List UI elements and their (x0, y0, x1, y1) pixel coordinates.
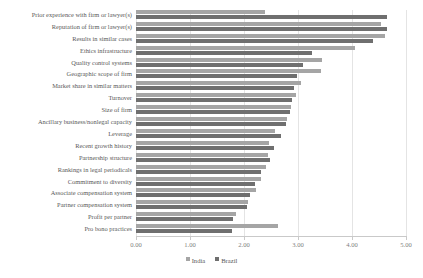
category-label: Partner compensation system (0, 201, 132, 208)
legend-swatch-icon (215, 257, 219, 261)
category-label: Reputation of firm or lawyer(s) (0, 23, 132, 30)
bar-india (136, 81, 301, 85)
bar-india (136, 188, 256, 192)
bar-india (136, 129, 275, 133)
bar-india (136, 200, 248, 204)
bar-india (136, 105, 291, 109)
category-label: Ancillary business/nonlegal capacity (0, 118, 132, 125)
bar-india (136, 153, 268, 157)
bar-group (136, 93, 406, 105)
category-label: Quality control systems (0, 59, 132, 66)
bar-brazil (136, 229, 232, 233)
x-tick-label: 1.00 (175, 241, 205, 249)
category-label: Size of firm (0, 106, 132, 113)
bar-india (136, 177, 261, 181)
bar-india (136, 93, 296, 97)
bar-group (136, 105, 406, 117)
bar-group (136, 34, 406, 46)
bar-brazil (136, 146, 274, 150)
bar-rows (136, 10, 406, 236)
bar-brazil (136, 205, 247, 209)
category-label: Partnership structure (0, 154, 132, 161)
bar-chart: Prior experience with firm or lawyer(s)R… (0, 0, 423, 278)
bar-brazil (136, 134, 281, 138)
bar-brazil (136, 74, 297, 78)
bar-brazil (136, 63, 303, 67)
bar-group (136, 22, 406, 34)
bar-group (136, 153, 406, 165)
legend-label: Brazil (221, 256, 237, 265)
category-label: Commitment to diversity (0, 178, 132, 185)
bar-india (136, 46, 355, 50)
tick-mark (352, 236, 353, 240)
bar-brazil (136, 39, 373, 43)
tick-mark (244, 236, 245, 240)
bar-brazil (136, 98, 292, 102)
bar-india (136, 141, 269, 145)
category-label: Recent growth history (0, 142, 132, 149)
category-label: Market share in similar matters (0, 82, 132, 89)
bar-group (136, 117, 406, 129)
category-label: Pro bono practices (0, 225, 132, 232)
bar-group (136, 212, 406, 224)
bar-india (136, 117, 287, 121)
category-label: Rankings in legal periodicals (0, 166, 132, 173)
category-label: Prior experience with firm or lawyer(s) (0, 11, 132, 18)
bar-group (136, 200, 406, 212)
bar-india (136, 34, 385, 38)
bar-india (136, 224, 278, 228)
legend-label: India (192, 256, 206, 265)
bar-group (136, 69, 406, 81)
category-label: Ethics infrastructure (0, 47, 132, 54)
bar-group (136, 129, 406, 141)
x-tick-label: 2.00 (229, 241, 259, 249)
bar-india (136, 165, 266, 169)
x-axis-line (136, 236, 406, 237)
legend-item[interactable]: India (186, 255, 206, 265)
plot-area (136, 10, 406, 236)
bar-brazil (136, 193, 250, 197)
bar-brazil (136, 15, 387, 19)
category-label: Geographic scope of firm (0, 70, 132, 77)
bar-brazil (136, 122, 286, 126)
bar-group (136, 165, 406, 177)
bar-group (136, 81, 406, 93)
category-axis-labels: Prior experience with firm or lawyer(s)R… (0, 10, 132, 236)
bar-group (136, 177, 406, 189)
chart-legend: IndiaBrazil (0, 255, 423, 265)
bar-group (136, 224, 406, 236)
category-label: Leverage (0, 130, 132, 137)
x-tick-label: 4.00 (337, 241, 367, 249)
bar-brazil (136, 51, 312, 55)
bar-group (136, 58, 406, 70)
tick-mark (298, 236, 299, 240)
tick-mark (190, 236, 191, 240)
bar-group (136, 188, 406, 200)
bar-india (136, 69, 321, 73)
bar-group (136, 141, 406, 153)
category-label: Results in similar cases (0, 35, 132, 42)
bar-india (136, 212, 236, 216)
bar-brazil (136, 182, 255, 186)
legend-swatch-icon (186, 257, 190, 261)
bar-brazil (136, 86, 294, 90)
bar-brazil (136, 110, 290, 114)
bar-brazil (136, 27, 387, 31)
bar-india (136, 58, 322, 62)
category-label: Profit per partner (0, 213, 132, 220)
gridline (406, 10, 407, 236)
x-tick-label: 3.00 (283, 241, 313, 249)
bar-india (136, 10, 265, 14)
bar-group (136, 46, 406, 58)
legend-item[interactable]: Brazil (215, 255, 237, 265)
bar-brazil (136, 217, 233, 221)
bar-brazil (136, 158, 270, 162)
category-label: Associate compensation system (0, 189, 132, 196)
x-tick-label: 5.00 (391, 241, 421, 249)
bar-india (136, 22, 381, 26)
bar-brazil (136, 170, 261, 174)
tick-mark (136, 236, 137, 240)
tick-mark (406, 236, 407, 240)
category-label: Turnover (0, 94, 132, 101)
x-tick-label: 0.00 (121, 241, 151, 249)
